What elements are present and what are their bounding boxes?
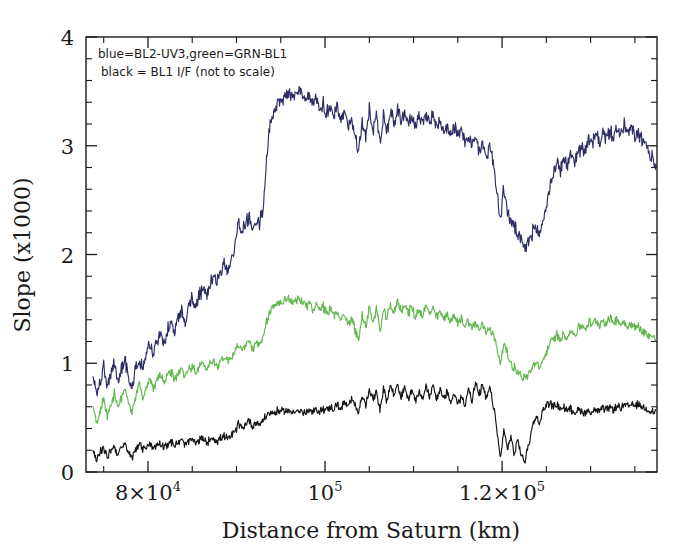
series-line-0 (93, 87, 656, 396)
plot-canvas: 8×1041051.2×105 01234 Distance from Satu… (0, 0, 678, 555)
x-tick-label: 1.2×105 (459, 479, 545, 505)
y-tick-label: 1 (61, 352, 74, 376)
legend-annotation-line-2: black = BL1 I/F (not to scale) (101, 65, 275, 79)
x-axis-title: Distance from Saturn (km) (222, 518, 520, 543)
y-tick-label: 3 (61, 135, 74, 159)
x-tick-label: 8×104 (115, 479, 181, 505)
data-series-group (93, 87, 656, 464)
y-axis-tick-labels: 01234 (61, 26, 74, 485)
series-line-2 (93, 382, 656, 463)
y-axis-title: Slope (x1000) (10, 177, 35, 332)
y-tick-label: 0 (61, 461, 74, 485)
y-tick-label: 2 (61, 244, 74, 268)
figure-container: 8×1041051.2×105 01234 Distance from Satu… (0, 0, 678, 555)
y-tick-label: 4 (61, 26, 74, 50)
x-axis-tick-labels: 8×1041051.2×105 (115, 479, 545, 505)
x-tick-label: 105 (308, 479, 343, 505)
legend-annotation-line-1: blue=BL2-UV3,green=GRN-BL1 (98, 47, 287, 61)
